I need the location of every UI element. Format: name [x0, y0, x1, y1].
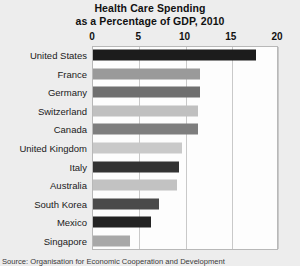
bar-united-states — [93, 50, 256, 61]
bar-mexico — [93, 217, 151, 228]
x-tick-label-0: 0 — [89, 30, 95, 43]
category-label-france: France — [57, 68, 87, 79]
x-tick-label-5: 5 — [135, 30, 141, 43]
bar-rows: United StatesFranceGermanySwitzerlandCan… — [0, 46, 300, 250]
bar-row: United Kingdom — [0, 139, 300, 158]
category-label-united-states: United States — [30, 50, 87, 61]
bar-row: Italy — [0, 157, 300, 176]
bar-united-kingdom — [93, 142, 182, 153]
category-label-australia: Australia — [50, 180, 87, 191]
x-tick-label-15: 15 — [225, 30, 236, 43]
bar-south-korea — [93, 198, 159, 209]
x-tick-label-20: 20 — [271, 30, 282, 43]
bar-row: Switzerland — [0, 102, 300, 121]
chart-title-line-1: Health Care Spending — [0, 2, 300, 15]
source-note: Source: Organisation for Economic Cooper… — [2, 257, 298, 266]
category-label-canada: Canada — [54, 124, 87, 135]
x-tick-label-10: 10 — [179, 30, 190, 43]
chart-title-line-2: as a Percentage of GDP, 2010 — [0, 15, 300, 28]
bar-row: France — [0, 65, 300, 84]
category-label-united-kingdom: United Kingdom — [19, 142, 87, 153]
chart-title: Health Care Spending as a Percentage of … — [0, 2, 300, 27]
bar-france — [93, 68, 200, 79]
bar-canada — [93, 124, 198, 135]
bar-row: Germany — [0, 83, 300, 102]
bar-australia — [93, 180, 177, 191]
bar-singapore — [93, 235, 130, 246]
bar-row: Singapore — [0, 231, 300, 250]
bar-row: South Korea — [0, 194, 300, 213]
category-label-mexico: Mexico — [57, 217, 87, 228]
category-label-switzerland: Switzerland — [38, 105, 87, 116]
bar-switzerland — [93, 105, 198, 116]
bar-row: Canada — [0, 120, 300, 139]
bar-italy — [93, 161, 179, 172]
category-label-italy: Italy — [70, 161, 87, 172]
bar-germany — [93, 87, 200, 98]
category-label-south-korea: South Korea — [34, 198, 87, 209]
category-label-germany: Germany — [48, 87, 87, 98]
category-label-singapore: Singapore — [44, 235, 87, 246]
bar-row: Mexico — [0, 213, 300, 232]
x-axis-ticks: 05101520 — [92, 30, 278, 44]
bar-row: Australia — [0, 176, 300, 195]
bar-row: United States — [0, 46, 300, 65]
